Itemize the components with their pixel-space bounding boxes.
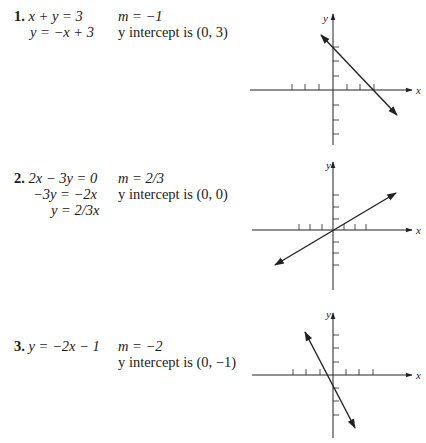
graph-1: y x: [250, 12, 421, 145]
graphs-canvas: y x y x y x: [0, 0, 426, 443]
graph-2: y x: [252, 159, 421, 290]
graph-line: [321, 35, 397, 115]
graph-line: [305, 332, 355, 428]
graph-3: y x: [252, 308, 421, 438]
y-axis-label: y: [322, 12, 328, 24]
x-axis-label: x: [415, 84, 421, 96]
x-axis-label: x: [415, 224, 421, 236]
y-axis-label: y: [325, 308, 331, 320]
y-axis-label: y: [325, 159, 331, 171]
graph-line: [275, 193, 396, 265]
x-axis-label: x: [415, 369, 421, 381]
